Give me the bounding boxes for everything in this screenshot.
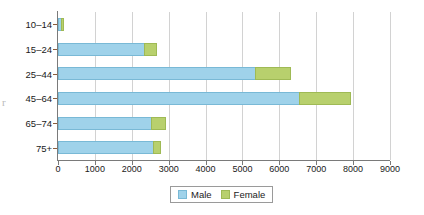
gridline xyxy=(242,12,243,160)
x-axis-tick-label: 3000 xyxy=(149,164,189,174)
category-label: 15–24 xyxy=(26,44,52,55)
x-axis-tick-label: 4000 xyxy=(186,164,226,174)
legend-item-male[interactable]: Male xyxy=(178,189,212,200)
stacked-bar-chart: r 0100020003000400050006000700080009000 … xyxy=(0,0,424,215)
bar-segment-female[interactable] xyxy=(255,67,291,80)
category-label: 10–14 xyxy=(26,19,52,30)
gridline xyxy=(132,12,133,160)
gridline xyxy=(169,12,170,160)
x-axis-tick-label: 1000 xyxy=(75,164,115,174)
legend-label-male: Male xyxy=(191,189,212,200)
y-axis-tick xyxy=(53,74,57,75)
gridline xyxy=(206,12,207,160)
legend-label-female: Female xyxy=(234,189,266,200)
bar-segment-male[interactable] xyxy=(58,92,300,105)
x-axis-tick-label: 7000 xyxy=(296,164,336,174)
bar-row[interactable] xyxy=(58,117,166,130)
plot-area xyxy=(58,12,390,160)
square-swatch-icon-female xyxy=(221,190,230,199)
category-label: 25–44 xyxy=(26,68,52,79)
legend-item-female[interactable]: Female xyxy=(221,189,266,200)
bar-segment-female[interactable] xyxy=(61,18,64,31)
bar-row[interactable] xyxy=(58,67,291,80)
bar-row[interactable] xyxy=(58,92,351,105)
x-axis-tick-label: 9000 xyxy=(370,164,410,174)
x-axis-tick-label: 8000 xyxy=(333,164,373,174)
x-axis-tick-label: 5000 xyxy=(222,164,262,174)
bar-segment-male[interactable] xyxy=(58,43,145,56)
category-label: 75+ xyxy=(36,142,52,153)
y-axis-tick xyxy=(53,98,57,99)
gridline xyxy=(316,12,317,160)
bar-segment-female[interactable] xyxy=(144,43,157,56)
y-axis-line xyxy=(57,11,58,160)
y-axis-tick xyxy=(53,148,57,149)
gridline xyxy=(279,12,280,160)
bar-segment-female[interactable] xyxy=(299,92,350,105)
x-axis-line xyxy=(57,160,390,161)
y-axis-tick xyxy=(53,24,57,25)
bar-row[interactable] xyxy=(58,18,64,31)
x-axis-tick-label: 0 xyxy=(38,164,78,174)
bar-segment-male[interactable] xyxy=(58,67,256,80)
gridline xyxy=(353,12,354,160)
category-label: 45–64 xyxy=(26,93,52,104)
x-axis-tick-label: 6000 xyxy=(259,164,299,174)
gridline xyxy=(390,12,391,160)
gridline xyxy=(95,12,96,160)
bar-segment-female[interactable] xyxy=(151,117,166,130)
square-swatch-icon-male xyxy=(178,190,187,199)
bar-row[interactable] xyxy=(58,141,161,154)
scan-artifact-glyph: r xyxy=(2,96,10,108)
chart-legend: Male Female xyxy=(170,186,273,203)
y-axis-tick xyxy=(53,49,57,50)
bar-segment-male[interactable] xyxy=(58,117,152,130)
bar-segment-male[interactable] xyxy=(58,141,154,154)
x-axis-tick-label: 2000 xyxy=(112,164,152,174)
bar-segment-female[interactable] xyxy=(153,141,160,154)
category-label: 65–74 xyxy=(26,118,52,129)
y-axis-tick xyxy=(53,123,57,124)
bar-row[interactable] xyxy=(58,43,157,56)
